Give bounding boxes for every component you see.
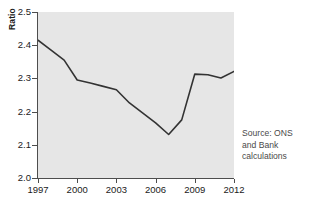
plot-area: [38, 12, 234, 178]
x-axis-tick-label: 2003: [96, 184, 136, 195]
line-chart-svg: [38, 12, 234, 178]
y-axis-tick-label: 2.3: [3, 72, 31, 83]
y-axis-tick: [32, 12, 37, 13]
x-axis-tick-label: 2006: [136, 184, 176, 195]
y-axis-tick: [32, 145, 37, 146]
x-axis-line: [37, 178, 234, 179]
x-axis-tick: [195, 179, 196, 183]
y-axis-tick-label: 2.2: [3, 106, 31, 117]
x-axis-tick: [234, 179, 235, 183]
y-axis-tick: [32, 45, 37, 46]
x-axis-tick: [156, 179, 157, 183]
y-axis-tick: [32, 112, 37, 113]
source-note: Source: ONS and Bank calculations: [242, 128, 310, 163]
y-axis-tick-label: 2.0: [3, 172, 31, 183]
x-axis-tick: [38, 179, 39, 183]
x-axis-tick-label: 1997: [18, 184, 58, 195]
data-series-line: [38, 40, 234, 134]
x-axis-tick: [77, 179, 78, 183]
source-line-1: Source: ONS: [242, 128, 310, 140]
y-axis-line: [37, 12, 38, 179]
y-axis-tick-label: 2.4: [3, 39, 31, 50]
source-line-3: calculations: [242, 151, 310, 163]
y-axis-tick: [32, 78, 37, 79]
chart-figure: Ratio 2.02.12.22.32.42.5 199720002003200…: [0, 0, 312, 202]
y-axis-tick-label: 2.5: [3, 6, 31, 17]
x-axis-tick-label: 2012: [214, 184, 254, 195]
x-axis-tick: [116, 179, 117, 183]
source-line-2: and Bank: [242, 140, 310, 152]
y-axis-tick-label: 2.1: [3, 139, 31, 150]
y-axis-tick: [32, 178, 37, 179]
x-axis-tick-label: 2009: [175, 184, 215, 195]
x-axis-tick-label: 2000: [57, 184, 97, 195]
